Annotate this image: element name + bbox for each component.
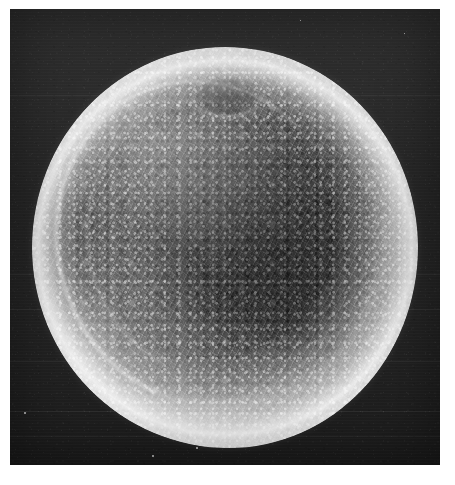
magnification-label (0, 0, 1, 1)
specimen-sphere (32, 47, 418, 448)
dust-speck (152, 455, 154, 457)
scale-bar-label (0, 0, 1, 1)
edge-charging-rim (32, 47, 418, 448)
dust-speck (196, 447, 198, 449)
dust-speck (24, 412, 26, 414)
dust-speck (300, 20, 301, 21)
dust-speck (404, 33, 405, 34)
micrograph-image-plate (10, 9, 440, 465)
sem-micrograph-figure (0, 0, 455, 485)
figure-caption (0, 0, 1, 1)
